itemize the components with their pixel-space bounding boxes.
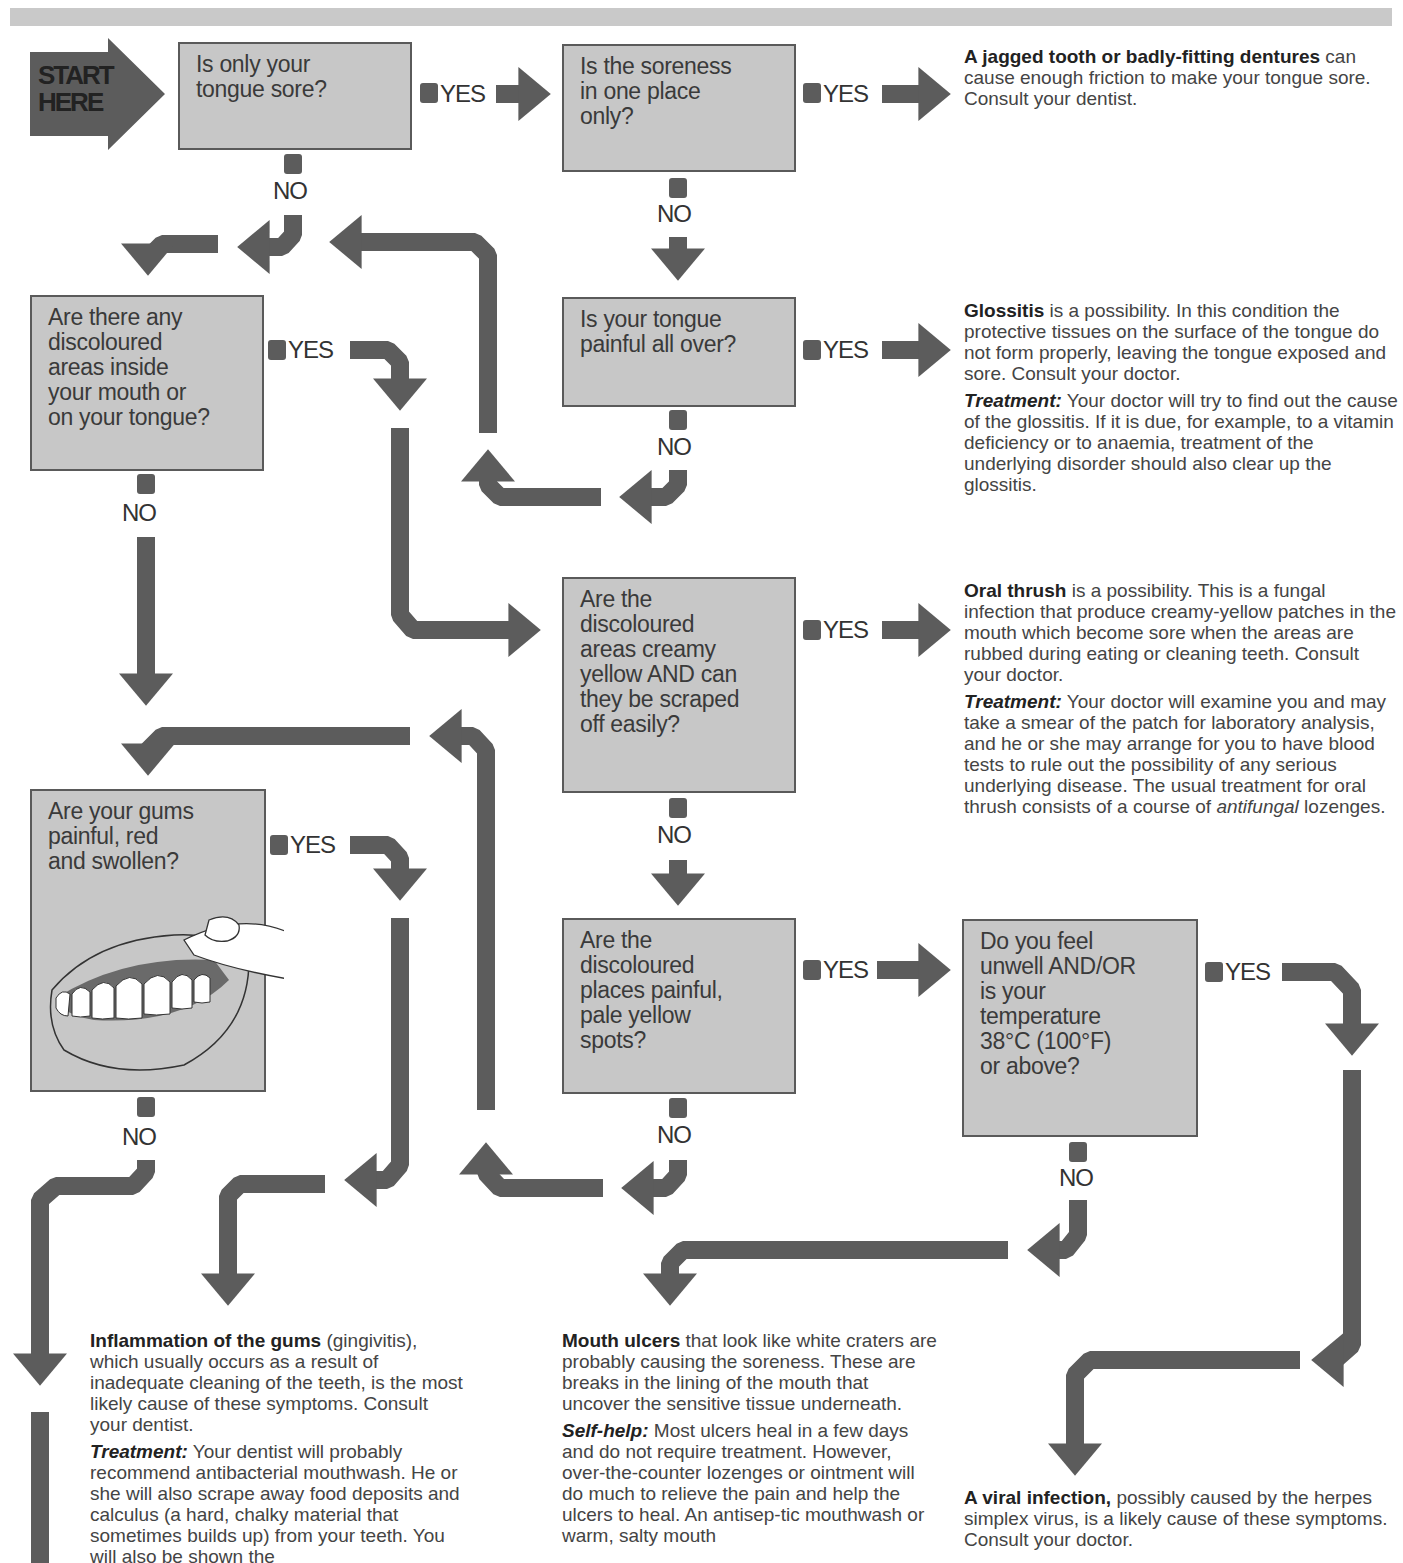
outcome-jagged-tooth: A jagged tooth or badly-fitting dentures… bbox=[964, 46, 1384, 115]
treatment-label: Treatment: bbox=[964, 390, 1062, 411]
question-text: Are the discoloured areas creamy yellow … bbox=[580, 587, 778, 737]
question-text: Is the soreness in one place only? bbox=[580, 54, 778, 129]
mouth-illustration bbox=[34, 880, 284, 1080]
yes-label: YES bbox=[1225, 959, 1270, 985]
outcome-heading: A viral infection, bbox=[964, 1487, 1111, 1508]
no-label: NO bbox=[273, 178, 307, 204]
question-tongue-painful-all-over: Is your tongue painful all over? bbox=[562, 297, 796, 407]
question-pale-yellow-spots: Are the discoloured places painful, pale… bbox=[562, 918, 796, 1094]
yes-label: YES bbox=[290, 832, 335, 858]
outcome-gingivitis: Inflammation of the gums (gingivitis), w… bbox=[90, 1330, 470, 1563]
start-here-label: START HERE bbox=[38, 62, 113, 116]
question-discoloured-areas: Are there any discoloured areas inside y… bbox=[30, 295, 264, 471]
no-label: NO bbox=[122, 500, 156, 526]
question-text: Are there any discoloured areas inside y… bbox=[48, 305, 246, 430]
outcome-heading: A jagged tooth or badly-fitting dentures bbox=[964, 46, 1320, 67]
outcome-heading: Oral thrush bbox=[964, 580, 1066, 601]
question-soreness-one-place: Is the soreness in one place only? bbox=[562, 44, 796, 172]
yes-label: YES bbox=[440, 81, 485, 107]
outcome-glossitis: Glossitis is a possibility. In this cond… bbox=[964, 300, 1399, 501]
selfhelp-label: Self-help: bbox=[562, 1420, 649, 1441]
yes-label: YES bbox=[823, 337, 868, 363]
no-label: NO bbox=[657, 1122, 691, 1148]
question-text: Are your gums painful, red and swollen? bbox=[48, 799, 248, 874]
treatment-label: Treatment: bbox=[964, 691, 1062, 712]
yes-label: YES bbox=[288, 337, 333, 363]
question-text: Are the discoloured places painful, pale… bbox=[580, 928, 778, 1053]
outcome-mouth-ulcers: Mouth ulcers that look like white crater… bbox=[562, 1330, 937, 1552]
outcome-oral-thrush: Oral thrush is a possibility. This is a … bbox=[964, 580, 1399, 823]
no-label: NO bbox=[1059, 1165, 1093, 1191]
question-text: Do you feel unwell AND/OR is your temper… bbox=[980, 929, 1180, 1079]
treatment-label: Treatment: bbox=[90, 1441, 188, 1462]
question-text: Is only your tongue sore? bbox=[196, 52, 394, 102]
outcome-heading: Mouth ulcers bbox=[562, 1330, 680, 1351]
question-unwell-temperature: Do you feel unwell AND/OR is your temper… bbox=[962, 919, 1198, 1137]
no-label: NO bbox=[657, 434, 691, 460]
question-only-tongue-sore: Is only your tongue sore? bbox=[178, 42, 412, 150]
no-label: NO bbox=[657, 822, 691, 848]
yes-label: YES bbox=[823, 617, 868, 643]
outcome-heading: Glossitis bbox=[964, 300, 1044, 321]
treatment-emphasis: antifungal bbox=[1216, 796, 1298, 817]
question-creamy-yellow-areas: Are the discoloured areas creamy yellow … bbox=[562, 577, 796, 793]
yes-label: YES bbox=[823, 957, 868, 983]
treatment-text-end: lozenges. bbox=[1299, 796, 1386, 817]
outcome-viral-infection: A viral infection, possibly caused by th… bbox=[964, 1487, 1399, 1556]
no-label: NO bbox=[657, 201, 691, 227]
yes-label: YES bbox=[823, 81, 868, 107]
outcome-heading: Inflammation of the gums bbox=[90, 1330, 321, 1351]
question-text: Is your tongue painful all over? bbox=[580, 307, 778, 357]
no-label: NO bbox=[122, 1124, 156, 1150]
